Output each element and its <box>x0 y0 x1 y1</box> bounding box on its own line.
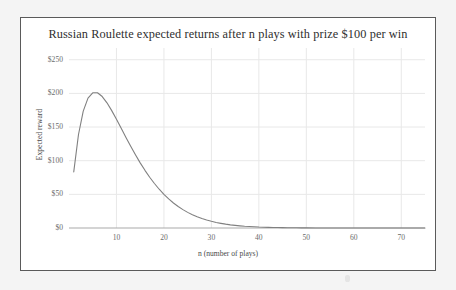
chart-screenshot: Russian Roulette expected returns after … <box>0 0 456 290</box>
scan-artifact <box>345 275 350 282</box>
plot-area <box>21 18 437 272</box>
y-axis-title: Expected reward <box>35 95 44 175</box>
x-axis-tick-label: 10 <box>101 233 131 242</box>
y-axis-tick-label: $100 <box>25 156 63 165</box>
vertical-gridlines <box>116 48 401 228</box>
x-axis-tick-label: 60 <box>339 233 369 242</box>
x-axis-tick-label: 40 <box>244 233 274 242</box>
x-axis-tick-label: 20 <box>149 233 179 242</box>
y-axis-tick-label: $0 <box>25 223 63 232</box>
y-axis-tick-label: $150 <box>25 122 63 131</box>
y-axis-tick-label: $250 <box>25 55 63 64</box>
x-axis-tick-label: 70 <box>386 233 416 242</box>
y-axis-tick-label: $50 <box>25 189 63 198</box>
x-axis-title: n (number of plays) <box>21 249 435 258</box>
y-axis-tick-label: $200 <box>25 88 63 97</box>
x-axis-tick-label: 50 <box>291 233 321 242</box>
horizontal-gridlines <box>69 60 425 195</box>
chart-card: Russian Roulette expected returns after … <box>20 17 436 271</box>
x-axis-tick-label: 30 <box>196 233 226 242</box>
